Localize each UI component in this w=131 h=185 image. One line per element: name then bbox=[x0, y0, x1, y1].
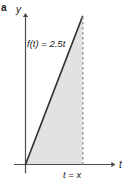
figure-panel-a: a y t f(t) = 2.5t t = x bbox=[0, 0, 131, 185]
panel-letter-label: a bbox=[1, 3, 7, 13]
y-axis-label: y bbox=[16, 5, 21, 15]
function-equation-label: f(t) = 2.5t bbox=[27, 39, 65, 49]
boundary-value-label: t = x bbox=[63, 170, 81, 180]
t-axis-label: t bbox=[119, 160, 122, 170]
graph-canvas bbox=[0, 0, 131, 185]
